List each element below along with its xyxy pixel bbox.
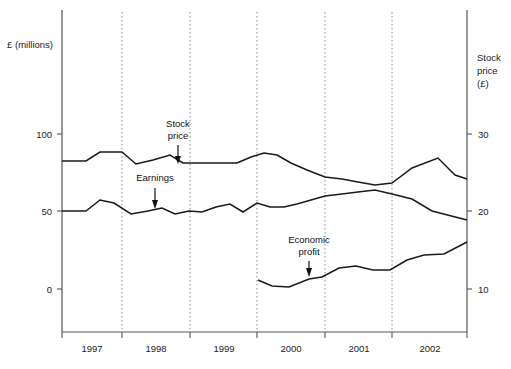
y-tick-right-20: 20: [478, 206, 489, 217]
x-tick-2002: 2002: [419, 343, 440, 354]
x-tick-1999: 1999: [213, 343, 234, 354]
line-chart: Stock price Earnings Economic profit £ (…: [0, 0, 511, 369]
x-axis-tick-labels: 1997 1998 1999 2000 2001 2002: [81, 343, 440, 354]
y-tick-right-30: 30: [478, 129, 489, 140]
economic-profit-annotation-line1: Economic: [288, 234, 330, 245]
economic-profit-annotation-arrow-head: [306, 268, 312, 277]
y-axis-right-title-line3: (£): [477, 78, 489, 89]
chart-container: Stock price Earnings Economic profit £ (…: [0, 0, 511, 369]
economic-profit-annotation-line2: profit: [298, 246, 319, 257]
x-tick-2001: 2001: [348, 343, 369, 354]
plot-frame: [62, 10, 467, 332]
stock-price-annotation-arrow-head: [175, 156, 181, 164]
earnings-annotation-line1: Earnings: [136, 172, 174, 183]
earnings-annotation-arrow-head: [152, 200, 158, 209]
series-line-economic-profit: [258, 242, 467, 287]
stock-price-annotation: Stock price: [166, 118, 190, 164]
y-axis-left-tick-labels: 100 50 0: [36, 129, 52, 295]
y-tick-left-50: 50: [41, 206, 52, 217]
y-axis-left-title: £ (millions): [7, 39, 53, 50]
y-tick-left-100: 100: [36, 129, 52, 140]
x-tick-2000: 2000: [280, 343, 301, 354]
x-axis-ticks: [62, 332, 467, 338]
y-axis-left-ticks: [57, 134, 62, 289]
x-tick-1997: 1997: [81, 343, 102, 354]
series-line-stock-price: [62, 152, 467, 185]
y-axis-right-title-line2: price: [477, 65, 498, 76]
y-tick-left-0: 0: [47, 284, 52, 295]
stock-price-annotation-line1: Stock: [166, 118, 190, 129]
y-axis-right-title: Stock price (£): [477, 52, 501, 89]
stock-price-annotation-line2: price: [168, 130, 189, 141]
y-tick-right-10: 10: [478, 284, 489, 295]
economic-profit-annotation: Economic profit: [288, 234, 330, 277]
y-axis-right-ticks: [467, 134, 472, 289]
earnings-annotation: Earnings: [136, 172, 174, 209]
y-axis-right-tick-labels: 30 20 10: [478, 129, 489, 295]
x-tick-1998: 1998: [145, 343, 166, 354]
series-line-earnings: [62, 190, 467, 220]
y-axis-right-title-line1: Stock: [477, 52, 501, 63]
